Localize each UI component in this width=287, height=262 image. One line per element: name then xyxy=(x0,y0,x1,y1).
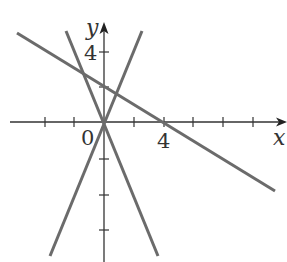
x-axis-label: x xyxy=(273,125,286,150)
y-axis-label: y xyxy=(85,15,99,40)
y-tick-label-4: 4 xyxy=(84,41,97,65)
coordinate-plot: y 4 0 4 x xyxy=(0,0,287,262)
axes xyxy=(10,22,287,262)
x-tick-label-4: 4 xyxy=(157,129,170,153)
origin-label: 0 xyxy=(81,126,94,150)
line-y-neg-2x xyxy=(66,31,158,256)
line-y-neg-half-x-plus-2 xyxy=(17,33,275,191)
data-lines xyxy=(17,31,275,256)
